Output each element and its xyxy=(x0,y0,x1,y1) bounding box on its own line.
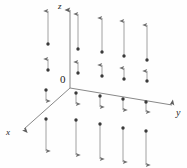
vector-arrow xyxy=(121,126,124,162)
diagram-canvas xyxy=(0,0,187,168)
axis-line-x xyxy=(24,88,70,129)
vector-arrow xyxy=(76,14,79,51)
arrow-base-dot xyxy=(121,97,124,100)
arrow-base-dot xyxy=(76,71,79,74)
arrow-base-dot xyxy=(145,79,148,82)
arrow-base-dot xyxy=(145,58,148,61)
axis-line-y xyxy=(70,88,172,105)
arrow-base-dot xyxy=(44,117,47,120)
vector-arrow xyxy=(74,118,77,155)
arrow-base-dot xyxy=(100,74,103,77)
arrow-base-dot xyxy=(122,54,125,57)
arrow-base-dot xyxy=(74,91,77,94)
vector-arrow xyxy=(74,91,77,104)
arrow-base-dot xyxy=(98,122,101,125)
arrow-base-dot xyxy=(144,100,147,103)
vector-arrow xyxy=(122,21,125,58)
vector-arrow xyxy=(98,94,101,107)
arrow-base-dot xyxy=(76,47,79,50)
vector-arrow xyxy=(44,88,47,101)
axes-group xyxy=(24,10,172,129)
vector-arrow xyxy=(122,68,125,81)
vector-arrow xyxy=(46,59,49,72)
arrow-base-dot xyxy=(100,50,103,53)
vector-arrow xyxy=(76,62,79,75)
arrow-base-dot xyxy=(46,42,49,45)
vector-arrow xyxy=(121,97,124,110)
vector-arrow xyxy=(145,71,148,83)
vector-arrow xyxy=(100,65,103,78)
axis-label-x: x xyxy=(6,128,10,137)
arrow-base-dot xyxy=(144,129,147,132)
vector-arrow xyxy=(100,18,103,54)
axis-label-y: y xyxy=(176,108,180,118)
vector-arrows-group xyxy=(44,11,148,165)
arrow-base-dot xyxy=(122,77,125,80)
vector-arrow xyxy=(98,122,101,159)
vector-field-figure: z y x 0 xyxy=(0,0,187,168)
vector-arrow xyxy=(144,100,147,112)
arrow-base-dot xyxy=(121,126,124,129)
vector-arrow xyxy=(145,25,148,62)
vector-arrow xyxy=(144,129,147,165)
origin-label: 0 xyxy=(60,74,66,85)
axis-label-z: z xyxy=(58,2,62,11)
vector-arrow xyxy=(44,117,47,151)
vector-arrow xyxy=(46,11,49,46)
arrow-base-dot xyxy=(46,68,49,71)
arrow-base-dot xyxy=(74,118,77,121)
arrow-base-dot xyxy=(98,94,101,97)
arrow-base-dot xyxy=(44,88,47,91)
